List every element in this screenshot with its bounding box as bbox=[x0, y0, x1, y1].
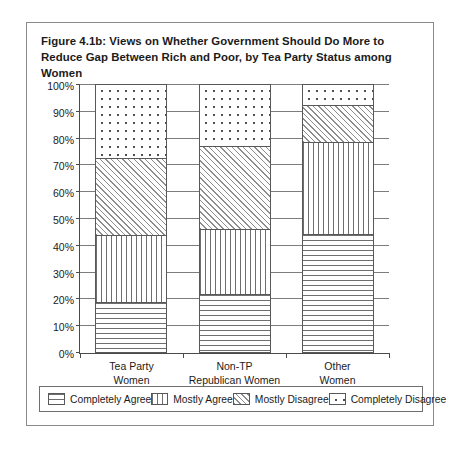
y-axis-label: 70% bbox=[53, 160, 74, 172]
y-axis-tick bbox=[76, 298, 80, 299]
y-axis-tick bbox=[76, 218, 80, 219]
bar-segment[interactable] bbox=[302, 142, 374, 235]
x-axis-category-line: Republican Women bbox=[175, 373, 295, 387]
legend-swatch-icon bbox=[48, 393, 65, 405]
legend-swatch-icon bbox=[151, 393, 168, 405]
legend-label: Mostly Agree bbox=[173, 394, 233, 405]
bar-segment[interactable] bbox=[199, 294, 271, 353]
chart-bar[interactable] bbox=[199, 85, 271, 353]
x-axis-tick bbox=[389, 353, 390, 358]
legend-item[interactable]: Mostly Agree bbox=[151, 393, 233, 405]
legend-swatch-icon bbox=[233, 393, 250, 405]
y-axis-tick bbox=[76, 325, 80, 326]
chart-legend: Completely AgreeMostly AgreeMostly Disag… bbox=[39, 386, 423, 412]
legend-item[interactable]: Completely Agree bbox=[48, 393, 151, 405]
bar-segment[interactable] bbox=[199, 229, 271, 296]
bar-segment[interactable] bbox=[199, 146, 271, 230]
y-axis-label: 50% bbox=[53, 214, 74, 226]
y-axis-label: 30% bbox=[53, 268, 74, 280]
bar-segment[interactable] bbox=[302, 234, 374, 353]
y-axis-label: 90% bbox=[53, 107, 74, 119]
x-axis-category-line: Women bbox=[72, 373, 192, 387]
legend-label: Mostly Disagree bbox=[255, 394, 329, 405]
legend-item[interactable]: Mostly Disagree bbox=[233, 393, 329, 405]
y-axis-tick bbox=[76, 138, 80, 139]
bar-segment[interactable] bbox=[302, 105, 374, 142]
x-axis-category-line: Women bbox=[278, 373, 398, 387]
figure-container: Figure 4.1b: Views on Whether Government… bbox=[26, 22, 434, 426]
chart-bar[interactable] bbox=[302, 85, 374, 353]
y-axis-label: 60% bbox=[53, 187, 74, 199]
chart-bar[interactable] bbox=[95, 85, 167, 353]
y-axis-label: 100% bbox=[47, 80, 74, 92]
y-axis-label: 10% bbox=[53, 321, 74, 333]
x-axis-category-label: Non-TPRepublican Women bbox=[175, 359, 295, 387]
bar-segment[interactable] bbox=[95, 158, 167, 237]
y-axis-tick bbox=[76, 84, 80, 85]
x-axis-category-label: OtherWomen bbox=[278, 359, 398, 387]
x-axis-tick bbox=[183, 353, 184, 358]
legend-label: Completely Disagree bbox=[351, 394, 447, 405]
y-axis-label: 20% bbox=[53, 294, 74, 306]
bar-segment[interactable] bbox=[95, 302, 167, 353]
y-axis-tick bbox=[76, 272, 80, 273]
legend-label: Completely Agree bbox=[70, 394, 151, 405]
x-axis-category-line: Other bbox=[278, 359, 398, 373]
x-axis-tick bbox=[286, 353, 287, 358]
x-axis-tick bbox=[80, 353, 81, 358]
y-axis-tick bbox=[76, 111, 80, 112]
y-axis-label: 80% bbox=[53, 134, 74, 146]
x-axis-category-label: Tea PartyWomen bbox=[72, 359, 192, 387]
chart-plot-wrapper: 0%10%20%30%40%50%60%70%80%90%100%Tea Par… bbox=[27, 23, 435, 427]
bar-segment[interactable] bbox=[199, 84, 271, 147]
x-axis-category-line: Non-TP bbox=[175, 359, 295, 373]
y-axis-tick bbox=[76, 191, 80, 192]
y-axis-tick bbox=[76, 164, 80, 165]
legend-swatch-icon bbox=[329, 393, 346, 405]
bar-segment[interactable] bbox=[95, 235, 167, 303]
x-axis-category-line: Tea Party bbox=[72, 359, 192, 373]
bar-segment[interactable] bbox=[95, 84, 167, 159]
legend-item[interactable]: Completely Disagree bbox=[329, 393, 447, 405]
y-axis-label: 40% bbox=[53, 241, 74, 253]
y-axis-tick bbox=[76, 245, 80, 246]
chart-plot-area: 0%10%20%30%40%50%60%70%80%90%100%Tea Par… bbox=[79, 85, 389, 354]
bar-segment[interactable] bbox=[302, 84, 374, 106]
